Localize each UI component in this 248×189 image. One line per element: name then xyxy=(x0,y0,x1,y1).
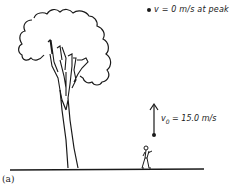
tree-branches xyxy=(48,40,88,100)
ground-line xyxy=(10,169,204,170)
person-figure xyxy=(142,146,152,168)
ball-at-launch xyxy=(152,133,156,137)
physics-diagram: v = 0 m/s at peak v0 = 15.0 m/s (a) xyxy=(0,0,248,189)
tree-trunk xyxy=(60,90,78,168)
ball-at-peak xyxy=(147,8,151,12)
figure-part-label: (a) xyxy=(2,174,14,184)
peak-velocity-label: v = 0 m/s at peak xyxy=(154,5,229,14)
velocity-value: = 15.0 m/s xyxy=(170,114,217,123)
initial-velocity-label: v0 = 15.0 m/s xyxy=(161,114,216,125)
diagram-canvas xyxy=(0,0,248,189)
tree-canopy xyxy=(19,9,111,85)
